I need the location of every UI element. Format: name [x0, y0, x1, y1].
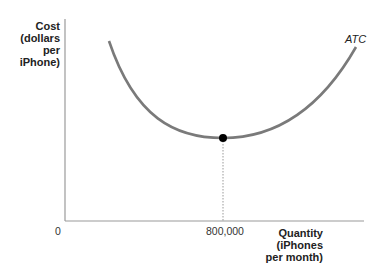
- minimum-point: [219, 134, 227, 142]
- x-axis-label: Quantity (iPhones per month): [266, 227, 323, 263]
- atc-curve: [109, 41, 356, 138]
- y-axis-label-line: (dollars: [20, 32, 60, 44]
- x-tick-0: 0: [55, 225, 61, 237]
- y-axis-label: Cost (dollars per iPhone): [20, 20, 60, 68]
- y-axis-label-line: per: [20, 44, 60, 56]
- y-axis-label-line: Cost: [20, 20, 60, 32]
- atc-label: ATC: [345, 33, 366, 45]
- y-axis-label-line: iPhone): [20, 56, 60, 68]
- x-tick-800000: 800,000: [206, 225, 244, 237]
- x-axis-label-line: (iPhones: [266, 239, 323, 251]
- x-axis-label-line: per month): [266, 251, 323, 263]
- x-axis-label-line: Quantity: [266, 227, 323, 239]
